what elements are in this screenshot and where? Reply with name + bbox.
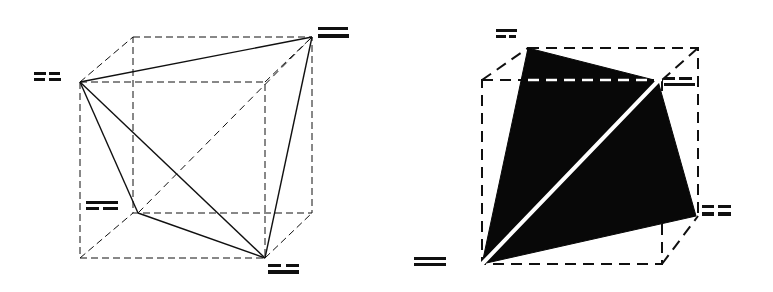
vertex-label-R1 — [496, 29, 517, 38]
right-cube-edge-br — [662, 216, 698, 264]
right-cube-edge-tl — [482, 48, 528, 80]
vertex-label-R3 — [414, 257, 446, 266]
vertex-label-R2 — [664, 77, 695, 86]
vertex-label-L2 — [318, 27, 349, 38]
vertex-label-L4 — [268, 264, 299, 274]
vertex-label-L1 — [34, 72, 61, 81]
right-figure-panel — [0, 0, 773, 292]
figure-canvas — [0, 0, 773, 292]
vertex-label-R4 — [702, 205, 731, 216]
right-cube-edge-tr — [662, 48, 698, 80]
vertex-label-L3 — [86, 201, 118, 210]
